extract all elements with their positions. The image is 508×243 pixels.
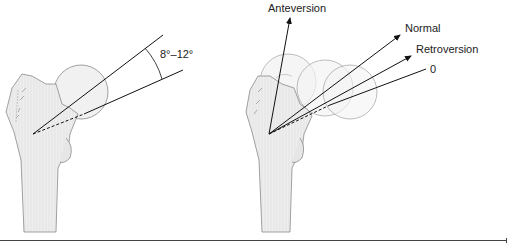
- femoral-version-diagram: 8°–12° Anteversion Normal Retroversion 0: [0, 0, 508, 243]
- left-femur-panel: 8°–12°: [6, 35, 193, 232]
- label-zero: 0: [430, 63, 436, 75]
- label-retroversion: Retroversion: [416, 43, 478, 55]
- angle-label: 8°–12°: [160, 48, 193, 60]
- right-femur-panel: Anteversion Normal Retroversion 0: [246, 2, 478, 232]
- bottom-border-tick: [506, 238, 507, 243]
- bottom-border-rule: [0, 240, 506, 241]
- label-normal: Normal: [405, 22, 440, 34]
- label-anteversion: Anteversion: [268, 2, 326, 14]
